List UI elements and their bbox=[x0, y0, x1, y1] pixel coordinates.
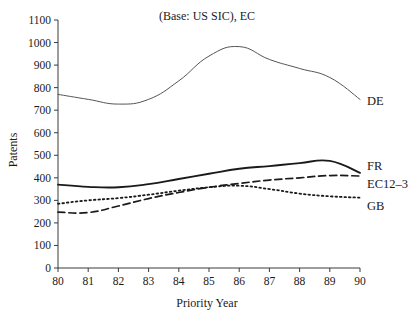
axes-group bbox=[58, 20, 360, 268]
series-label-ec12-3: EC12–3 bbox=[367, 177, 408, 191]
y-tick-label: 1000 bbox=[28, 37, 51, 49]
series-label-group: DEFREC12–3GB bbox=[367, 94, 408, 212]
series-line-de bbox=[58, 46, 360, 104]
x-tick-label: 85 bbox=[203, 275, 215, 287]
x-tick-label: 86 bbox=[233, 275, 245, 287]
x-tick-label: 80 bbox=[52, 275, 64, 287]
y-tick-label: 700 bbox=[34, 104, 52, 116]
x-tick-group: 8081828384858687888990 bbox=[52, 268, 366, 287]
x-tick-label: 90 bbox=[354, 275, 366, 287]
y-tick-label: 900 bbox=[34, 59, 52, 71]
x-tick-label: 89 bbox=[324, 275, 336, 287]
plot-area: 010020030040050060070080090010001100 808… bbox=[0, 0, 414, 315]
x-tick-label: 84 bbox=[173, 275, 185, 287]
x-axis-title: Priority Year bbox=[176, 296, 237, 310]
series-line-ec12-3 bbox=[58, 175, 360, 213]
series-line-fr bbox=[58, 160, 360, 187]
series-label-fr: FR bbox=[367, 159, 383, 173]
y-axis-title: Patents bbox=[6, 132, 20, 167]
x-tick-label: 81 bbox=[82, 275, 94, 287]
y-tick-label: 600 bbox=[34, 127, 52, 139]
y-tick-label: 100 bbox=[34, 239, 52, 251]
y-tick-group: 010020030040050060070080090010001100 bbox=[28, 14, 58, 274]
patents-line-chart: 010020030040050060070080090010001100 808… bbox=[0, 0, 414, 315]
chart-title: (Base: US SIC), EC bbox=[159, 9, 255, 23]
y-tick-label: 300 bbox=[34, 194, 52, 206]
y-tick-label: 500 bbox=[34, 149, 52, 161]
y-tick-label: 1100 bbox=[28, 14, 51, 26]
series-group bbox=[58, 46, 360, 213]
x-tick-label: 88 bbox=[294, 275, 306, 287]
y-tick-label: 400 bbox=[34, 172, 52, 184]
x-tick-label: 83 bbox=[143, 275, 155, 287]
series-label-de: DE bbox=[367, 94, 384, 108]
y-tick-label: 0 bbox=[45, 262, 51, 274]
x-tick-label: 87 bbox=[264, 275, 276, 287]
y-tick-label: 200 bbox=[34, 217, 52, 229]
x-tick-label: 82 bbox=[113, 275, 125, 287]
y-tick-label: 800 bbox=[34, 82, 52, 94]
series-label-gb: GB bbox=[367, 199, 384, 213]
